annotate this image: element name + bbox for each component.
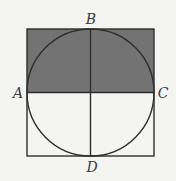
label-c: C	[158, 85, 169, 101]
label-b: B	[85, 11, 96, 27]
geometry-diagram: B D A C	[0, 0, 176, 181]
label-a: A	[11, 85, 23, 101]
label-d: D	[85, 159, 97, 175]
